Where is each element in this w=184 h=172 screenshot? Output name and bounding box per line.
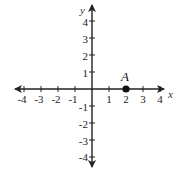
- y-tick-label: -1: [79, 101, 88, 113]
- coordinate-plane: -4 -3 -2 -1 1 2 3 4 4 3 2 1 -1 -2 -3 -4 …: [0, 0, 184, 172]
- x-tick-label: -4: [17, 93, 27, 105]
- y-tick-label: 3: [83, 33, 89, 45]
- point-a: [122, 85, 129, 92]
- y-tick-label: 2: [83, 50, 89, 62]
- y-tick-label: 4: [83, 16, 89, 28]
- y-tick-label: -2: [79, 118, 88, 130]
- x-tick-label: 1: [106, 93, 112, 105]
- y-tick-label: -4: [79, 151, 89, 163]
- x-tick-label: 3: [140, 93, 146, 105]
- x-axis-label: x: [167, 88, 173, 100]
- point-a-label: A: [120, 69, 129, 84]
- x-tick-label: -2: [51, 93, 60, 105]
- x-tick-label: 4: [157, 93, 163, 105]
- y-tick-label: -3: [79, 135, 89, 147]
- x-tick-label: -3: [34, 93, 44, 105]
- y-axis-label: y: [79, 4, 85, 16]
- x-tick-label: -1: [68, 93, 77, 105]
- x-tick-label: 2: [123, 93, 129, 105]
- y-tick-label: 1: [83, 67, 89, 79]
